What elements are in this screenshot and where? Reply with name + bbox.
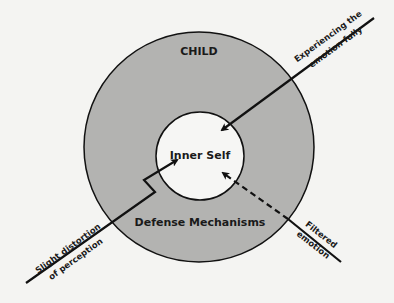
defense-mechanisms-label: Defense Mechanisms [135, 216, 266, 229]
child-label: CHILD [180, 45, 218, 58]
inner-self-label: Inner Self [170, 149, 231, 162]
child-defense-diagram: CHILD Inner Self Defense Mechanisms Expe… [0, 0, 394, 303]
